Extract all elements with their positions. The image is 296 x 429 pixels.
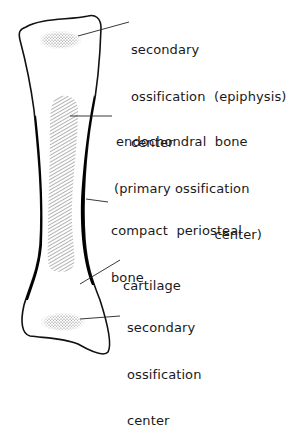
label-secondary-ossification-bottom: secondary ossification center xyxy=(127,289,202,429)
secondary-ossification-center-bottom xyxy=(41,313,85,331)
secondary-ossification-center-top xyxy=(39,31,81,49)
leader-compact xyxy=(86,199,108,202)
